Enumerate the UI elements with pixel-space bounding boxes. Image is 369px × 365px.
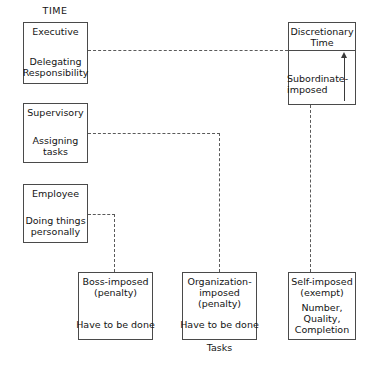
boss-imposed-box-body: Have to be done (76, 320, 155, 331)
tasks-axis-label: Tasks (180, 343, 259, 354)
connector-executive-to-discretionary (88, 50, 288, 51)
diagram-canvas: TIME Executive Delegating Responsibility… (0, 0, 369, 365)
organization-imposed-box-body: Have to be done (180, 320, 259, 331)
boss-imposed-box-heading: Boss-imposed (penalty) (76, 277, 155, 299)
employee-box-body: Doing things personally (20, 216, 91, 238)
self-imposed-box-body: Number, Quality, Completion (285, 303, 359, 336)
supervisory-box-body: Assigning tasks (23, 136, 88, 158)
connector-supervisory-horizontal (88, 133, 220, 134)
connector-employee-horizontal (88, 214, 115, 215)
employee-box-heading: Employee (23, 189, 88, 200)
subordinate-imposed-arrow-head (341, 52, 347, 58)
discretionary-time-box-body: Subordinate- imposed (287, 74, 343, 96)
time-axis-label: TIME (30, 6, 80, 17)
discretionary-time-box-divider (289, 50, 355, 51)
supervisory-box-heading: Supervisory (21, 108, 90, 119)
executive-box-body: Delegating Responsibility (21, 57, 90, 79)
connector-supervisory-to-organization (219, 133, 220, 272)
connector-employee-to-boss-imposed (114, 214, 115, 272)
discretionary-time-box-heading: Discretionary Time (285, 27, 359, 49)
connector-discretionary-to-self-imposed (310, 105, 311, 272)
subordinate-imposed-arrow-shaft (344, 57, 345, 101)
self-imposed-box-heading: Self-imposed (exempt) (285, 277, 359, 299)
executive-box-heading: Executive (23, 27, 88, 38)
organization-imposed-box-heading: Organization- imposed (penalty) (180, 277, 259, 310)
